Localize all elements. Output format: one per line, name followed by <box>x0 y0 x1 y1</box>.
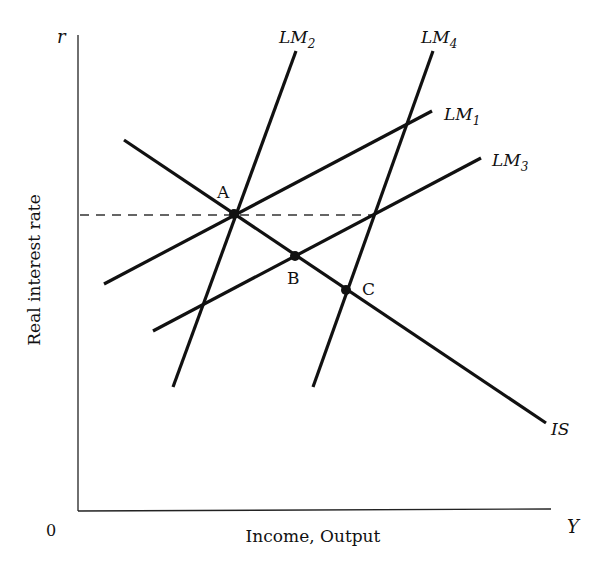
lm3-label: LM3 <box>491 150 529 174</box>
x-axis-symbol: Y <box>567 516 581 537</box>
x-axis <box>78 509 551 511</box>
point-a-marker <box>229 209 239 219</box>
y-axis-symbol: r <box>57 26 67 47</box>
is-label: IS <box>550 419 569 439</box>
lm1-curve <box>104 111 432 284</box>
point-b-marker <box>290 251 300 261</box>
y-axis-label: Real interest rate <box>24 194 44 345</box>
lm3-curve <box>153 158 481 331</box>
lm2-label: LM2 <box>278 27 315 51</box>
is-curve <box>124 140 546 423</box>
point-a-label: A <box>216 182 230 202</box>
x-axis-label: Income, Output <box>246 526 381 546</box>
lm4-label: LM4 <box>420 27 457 51</box>
lm2-curve <box>173 51 296 387</box>
lm1-label: LM1 <box>443 104 480 128</box>
origin-label: 0 <box>46 521 56 540</box>
point-c-label: C <box>362 279 375 299</box>
is-lm-diagram: A B C LM2 LM4 LM1 LM3 IS r Y 0 Income, O… <box>0 0 602 570</box>
point-b-label: B <box>287 268 300 288</box>
point-c-marker <box>341 285 351 295</box>
